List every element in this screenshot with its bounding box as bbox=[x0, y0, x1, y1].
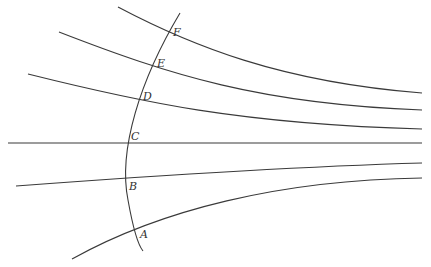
label-a: A bbox=[139, 228, 148, 241]
curve-d bbox=[28, 74, 422, 129]
curve-e bbox=[59, 32, 422, 110]
label-b: B bbox=[128, 180, 137, 193]
curve-f bbox=[118, 7, 422, 93]
label-e: E bbox=[156, 57, 165, 70]
curve-b bbox=[16, 163, 422, 186]
curve-a bbox=[72, 178, 422, 259]
label-f: F bbox=[172, 26, 181, 39]
label-d: D bbox=[142, 90, 152, 103]
diagram-canvas: F E D C B A bbox=[0, 0, 431, 267]
label-c: C bbox=[131, 130, 140, 143]
